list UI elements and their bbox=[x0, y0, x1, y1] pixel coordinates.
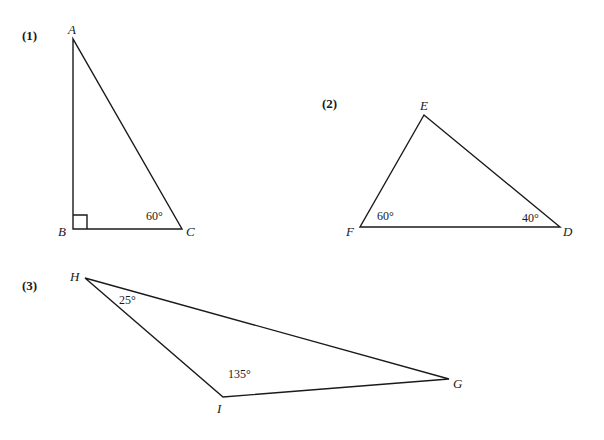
right-angle-marker-b bbox=[73, 215, 87, 229]
figure-1-number: (1) bbox=[22, 28, 37, 43]
angle-d-label: 40° bbox=[522, 211, 539, 225]
figure-2-triangle-efd: (2) E F D 60° 40° bbox=[322, 96, 573, 239]
triangles-diagram: (1) A B C 60° (2) E F D 60° 40° (3) H G … bbox=[0, 0, 604, 440]
angle-i-label: 135° bbox=[228, 367, 251, 381]
vertex-label-b: B bbox=[58, 224, 66, 239]
vertex-label-h: H bbox=[69, 269, 80, 284]
figure-1-triangle-abc: (1) A B C 60° bbox=[22, 22, 195, 239]
angle-f-label: 60° bbox=[377, 209, 394, 223]
triangle-hgi-shape bbox=[85, 278, 449, 397]
vertex-label-g: G bbox=[453, 376, 463, 391]
figure-3-number: (3) bbox=[22, 278, 37, 293]
diagram-svg: (1) A B C 60° (2) E F D 60° 40° (3) H G … bbox=[0, 0, 604, 440]
vertex-label-c: C bbox=[186, 224, 195, 239]
angle-h-label: 25° bbox=[119, 293, 136, 307]
vertex-label-e: E bbox=[419, 98, 428, 113]
vertex-label-a: A bbox=[67, 22, 76, 37]
vertex-label-i: I bbox=[216, 401, 222, 416]
figure-3-triangle-hgi: (3) H G I 25° 135° bbox=[22, 269, 463, 416]
figure-2-number: (2) bbox=[322, 96, 337, 111]
vertex-label-d: D bbox=[562, 224, 573, 239]
triangle-abc-shape bbox=[73, 39, 182, 229]
vertex-label-f: F bbox=[345, 224, 355, 239]
angle-c-label: 60° bbox=[146, 209, 163, 223]
